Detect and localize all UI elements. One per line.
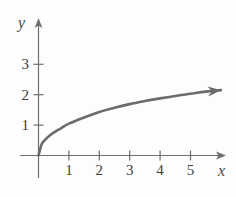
y-tick-label-1: 1: [13, 118, 29, 133]
graph-figure: x y 1 2 3 4 5 1 2 3: [0, 0, 236, 197]
x-tick-label-2: 2: [91, 163, 107, 178]
x-tick-label-5: 5: [183, 163, 199, 178]
y-tick-label-3: 3: [13, 57, 29, 72]
y-tick-label-2: 2: [13, 88, 29, 103]
x-axis-label: x: [218, 163, 225, 179]
curve-path: [39, 90, 221, 155]
y-axis-label: y: [18, 15, 25, 31]
plot-area: [0, 0, 236, 197]
x-tick-label-4: 4: [152, 163, 168, 178]
x-axis: [20, 152, 226, 160]
x-tick-label-3: 3: [122, 163, 138, 178]
x-tick-label-1: 1: [61, 163, 77, 178]
